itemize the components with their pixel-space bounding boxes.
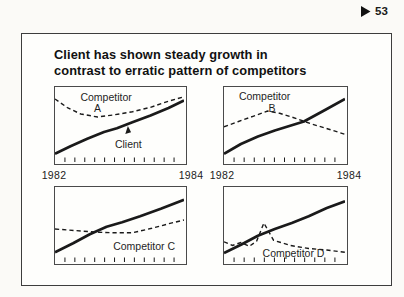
competitor-a-label-line2: A: [94, 103, 101, 114]
competitor-b-label-line2: B: [268, 103, 275, 114]
chart-panel-competitor-d: Competitor D: [223, 186, 348, 265]
competitor-a-label-line1: Competitor: [80, 92, 131, 103]
client-label: Client: [115, 139, 142, 150]
x-axis-label-1982-right: 1982: [210, 169, 235, 181]
x-axis-label-1984-left: 1984: [179, 169, 204, 181]
client-callout-arrow-icon: [125, 126, 131, 134]
slide-title-line2: contrast to erratic pattern of competito…: [54, 63, 364, 79]
scanned-slide-page: { "page_marker": { "icon": "right-triang…: [0, 0, 404, 297]
slide-title: Client has shown steady growth in contra…: [54, 47, 364, 78]
slide-frame: Client has shown steady growth in contra…: [21, 33, 392, 286]
competitor-c-label: Competitor C: [113, 241, 175, 252]
page-marker: 53: [361, 4, 388, 18]
chart-panel-competitor-a: Competitor A Client: [54, 86, 187, 165]
competitor-d-label: Competitor D: [263, 248, 325, 259]
page-number: 53: [375, 5, 388, 17]
x-axis-label-1982-left: 1982: [42, 169, 67, 181]
right-triangle-icon: [361, 6, 371, 17]
competitor-b-label-line1: Competitor: [239, 91, 290, 102]
x-axis-label-1984-right: 1984: [337, 169, 362, 181]
chart-panel-competitor-c: Competitor C: [54, 186, 187, 265]
chart-panel-competitor-b: Competitor B: [223, 86, 348, 165]
slide-title-line1: Client has shown steady growth in: [54, 47, 364, 63]
